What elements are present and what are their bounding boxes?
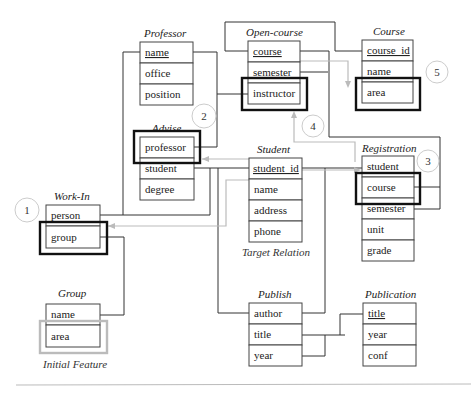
table-course: Course course_id name area	[356, 25, 420, 110]
step-marker-5: 5	[426, 61, 448, 83]
field-phone: phone	[254, 225, 281, 237]
table-registration: Registration student course semester uni…	[356, 142, 420, 261]
table-title: Work-In	[54, 190, 90, 202]
table-title: Group	[58, 287, 87, 299]
table-title: Professor	[143, 27, 187, 39]
arrowhead-icon	[108, 223, 115, 229]
table-work-in: Work-In person group	[40, 190, 107, 254]
field-course: course	[253, 45, 282, 57]
table-title: Registration	[361, 142, 417, 154]
field-student-id: student_id	[253, 162, 299, 174]
field-area: area	[51, 330, 69, 342]
field-author: author	[254, 307, 282, 319]
link-registration-semester	[414, 187, 440, 209]
step-number: 5	[434, 66, 440, 78]
field-name: name	[367, 65, 391, 77]
table-advise: Advise professor student degree	[134, 122, 200, 200]
table-student: Student student_id name address phone Ta…	[242, 143, 310, 258]
arrowhead-icon	[202, 156, 209, 162]
link-student-publish-right	[302, 168, 325, 313]
field-conf: conf	[368, 349, 388, 361]
field-name: name	[254, 183, 278, 195]
field-person: person	[51, 209, 81, 221]
link-workin-group-group-name	[100, 237, 124, 315]
field-name: name	[51, 308, 75, 320]
field-group: group	[51, 231, 77, 243]
field-position: position	[145, 88, 181, 100]
arrowhead-icon	[345, 81, 351, 88]
table-open-course: Open-course course semester instructor	[242, 26, 307, 110]
target-relation-caption: Target Relation	[242, 246, 310, 258]
field-semester: semester	[253, 66, 292, 78]
field-office: office	[145, 67, 171, 79]
field-instructor: instructor	[253, 87, 295, 99]
field-year: year	[368, 328, 387, 340]
initial-feature-caption: Initial Feature	[42, 358, 107, 370]
table-title: Course	[373, 25, 405, 37]
table-publish: Publish author title year	[249, 288, 302, 366]
schema-diagram: Professor name office position Open-cour…	[0, 0, 471, 394]
arrowhead-icon	[291, 111, 297, 118]
field-student: student	[367, 160, 399, 172]
field-degree: degree	[145, 183, 174, 195]
link-publication-title	[340, 314, 363, 335]
link-publish-year-publication	[302, 335, 325, 356]
table-title: Student	[257, 143, 291, 155]
table-publication: Publication title year conf	[363, 288, 417, 366]
step-marker-1: 1	[15, 198, 39, 222]
field-course: course	[367, 181, 396, 193]
link-student-publish-left	[218, 168, 249, 313]
link-professor-name-advise-professor	[193, 52, 217, 147]
field-professor: professor	[145, 141, 186, 153]
field-title: title	[254, 328, 271, 340]
table-group: Group name area Initial Feature	[40, 287, 107, 370]
step-number: 3	[425, 155, 431, 167]
step-marker-2: 2	[192, 104, 216, 128]
field-title: title	[368, 307, 385, 319]
table-title: Publication	[364, 288, 417, 300]
field-grade: grade	[367, 244, 392, 256]
table-title: Publish	[257, 288, 292, 300]
divider	[16, 384, 471, 385]
step-marker-3: 3	[417, 150, 439, 172]
field-address: address	[254, 204, 287, 216]
field-course-id: course_id	[367, 44, 410, 56]
step-number: 4	[310, 120, 316, 132]
step-marker-4: 4	[302, 115, 324, 137]
step-number: 1	[24, 204, 30, 216]
table-title: Open-course	[246, 26, 303, 38]
field-unit: unit	[367, 223, 384, 235]
field-year: year	[254, 349, 273, 361]
field-area: area	[367, 86, 385, 98]
table-professor: Professor name office position	[140, 27, 193, 105]
field-name: name	[145, 46, 169, 58]
step-number: 2	[201, 110, 207, 122]
